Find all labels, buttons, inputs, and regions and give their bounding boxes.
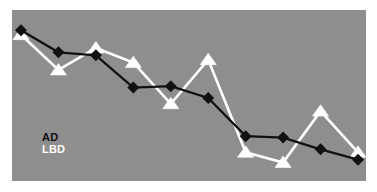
ad-marker xyxy=(165,80,177,92)
lbd-marker xyxy=(200,53,216,64)
lbd-marker xyxy=(312,105,328,116)
ad-marker xyxy=(52,46,64,58)
chart-figure: AD LBD xyxy=(0,0,377,192)
lbd-marker xyxy=(125,56,141,67)
lbd-marker xyxy=(238,146,254,157)
plot-area: AD LBD xyxy=(12,10,366,181)
ad-marker xyxy=(277,132,289,144)
series-ad xyxy=(15,24,364,165)
legend-item-lbd: LBD xyxy=(42,144,65,156)
ad-line xyxy=(21,30,358,159)
chart-legend: AD LBD xyxy=(42,132,65,156)
ad-markers xyxy=(15,24,364,165)
ad-marker xyxy=(315,143,327,155)
